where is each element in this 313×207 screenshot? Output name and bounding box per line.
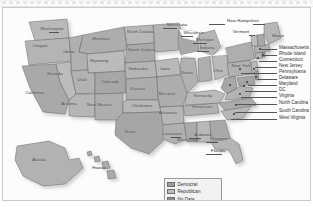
callout-dot-connecticut bbox=[257, 57, 259, 59]
leader-line-indiana bbox=[197, 51, 209, 52]
map-label-new-hampshire: New Hampshire bbox=[225, 19, 261, 24]
callout-label-delaware: Delaware bbox=[279, 76, 298, 81]
map-label-tennessee: Tennessee bbox=[189, 105, 215, 110]
callout-label-new-jersey: New Jersey bbox=[279, 64, 303, 69]
leader-line-washington bbox=[49, 32, 59, 33]
map-label-vermont: Vermont bbox=[229, 30, 253, 35]
map-legend: Democrat Republican No Data bbox=[164, 178, 222, 201]
callout-label-dc: DC bbox=[279, 88, 286, 93]
map-label-georgia: Georgia bbox=[208, 137, 230, 142]
map-label-missouri: Missouri bbox=[155, 92, 179, 97]
map-label-utah: Utah bbox=[73, 78, 91, 83]
map-label-kentucky: Kentucky bbox=[191, 94, 215, 99]
map-label-florida: Florida bbox=[208, 149, 228, 154]
legend-item-democrat[interactable]: Democrat bbox=[167, 181, 219, 189]
leader-line-maryland bbox=[248, 85, 277, 86]
callout-label-north-carolina: North Carolina bbox=[279, 101, 308, 106]
map-label-nevada: Nevada bbox=[43, 72, 67, 77]
map-label-illinois: Illinois bbox=[177, 71, 197, 76]
map-label-arizona: Arizona bbox=[57, 102, 81, 107]
legend-item-republican[interactable]: Republican bbox=[167, 188, 219, 196]
leader-line-pennsylvania bbox=[241, 73, 277, 74]
callout-dot-new-jersey bbox=[253, 68, 255, 70]
callout-dot-west-virginia bbox=[229, 84, 231, 86]
leader-line-massachusetts bbox=[261, 49, 277, 50]
map-label-maine: Maine bbox=[269, 34, 287, 39]
map-label-south-dakota: South Dakota bbox=[128, 48, 148, 53]
map-label-indiana: Indiana bbox=[197, 46, 217, 51]
callout-label-virginia: Virginia bbox=[279, 94, 294, 99]
leader-line-new-jersey bbox=[255, 67, 277, 68]
callout-label-rhode-island: Rhode Island bbox=[279, 52, 306, 57]
state-hawaii-2 bbox=[94, 156, 100, 162]
map-label-kansas: Kansas bbox=[127, 87, 149, 92]
leader-line-georgia bbox=[206, 142, 218, 143]
state-hawaii-1 bbox=[87, 151, 92, 156]
leader-line-west-virginia bbox=[231, 119, 277, 120]
state-north-dakota bbox=[124, 25, 154, 45]
state-hawaii-4 bbox=[107, 170, 116, 179]
map-label-new-york: New York bbox=[229, 64, 253, 69]
state-new-york bbox=[225, 42, 255, 63]
legend-swatch-democrat bbox=[167, 182, 175, 187]
leader-line-mississippi bbox=[171, 137, 181, 138]
callout-dot-pennsylvania bbox=[239, 68, 241, 70]
callout-label-connecticut: Connecticut bbox=[279, 58, 303, 63]
callout-dot-south-carolina bbox=[233, 113, 235, 115]
map-label-california: California bbox=[21, 91, 49, 96]
legend-label-no-data: No Data bbox=[178, 197, 195, 201]
leader-line-rhode-island bbox=[264, 55, 277, 56]
callout-label-pennsylvania: Pennsylvania bbox=[279, 70, 306, 75]
leader-line-delaware bbox=[257, 79, 277, 80]
leader-line-virginia bbox=[241, 97, 277, 98]
us-map-figure: Washington Oregon Idaho Montana North Da… bbox=[2, 7, 311, 201]
map-label-alaska: Alaska bbox=[29, 158, 49, 163]
map-label-north-dakota: North Dakota bbox=[127, 30, 147, 35]
map-label-wisconsin: Wisconsin bbox=[182, 31, 206, 36]
screenshot-root: Washington Oregon Idaho Montana North Da… bbox=[0, 0, 313, 207]
callout-dot-delaware bbox=[255, 76, 257, 78]
map-label-nebraska: Nebraska bbox=[125, 67, 151, 72]
leader-line-north-carolina bbox=[237, 104, 277, 105]
map-label-ohio: Ohio bbox=[211, 69, 225, 74]
callout-dot-maryland bbox=[246, 81, 248, 83]
cut-off-text-strip bbox=[0, 0, 313, 7]
leader-line-vermont bbox=[249, 35, 255, 36]
legend-item-no-data[interactable]: No Data bbox=[167, 196, 219, 202]
leader-line-florida bbox=[206, 154, 222, 155]
map-label-texas: Texas bbox=[120, 130, 140, 135]
leader-line-new-hampshire-2 bbox=[253, 24, 265, 25]
map-label-wyoming: Wyoming bbox=[86, 59, 112, 64]
leader-line-alabama bbox=[189, 138, 201, 139]
map-label-oregon: Oregon bbox=[27, 44, 53, 49]
leader-line-new-hampshire bbox=[209, 24, 225, 25]
leader-line-south-carolina bbox=[235, 112, 277, 113]
map-label-colorado: Colorado bbox=[97, 80, 123, 85]
legend-label-democrat: Democrat bbox=[178, 182, 198, 187]
state-indiana bbox=[198, 56, 212, 82]
callout-label-maryland: Maryland bbox=[279, 82, 298, 87]
map-label-minnesota: Minnesota bbox=[164, 23, 190, 28]
leader-line-connecticut bbox=[259, 61, 277, 62]
callout-label-south-carolina: South Carolina bbox=[279, 109, 309, 114]
callout-label-massachusetts: Massachusetts bbox=[279, 46, 309, 51]
ghost-text-line bbox=[2, 1, 311, 4]
leader-line-dc bbox=[245, 91, 277, 92]
leader-line-michigan bbox=[193, 43, 207, 44]
map-label-iowa: Iowa bbox=[157, 67, 173, 72]
map-label-washington: Washington bbox=[37, 27, 67, 32]
legend-label-republican: Republican bbox=[178, 189, 201, 194]
leader-line-wisconsin bbox=[181, 36, 193, 37]
callout-dot-virginia bbox=[239, 93, 241, 95]
legend-swatch-no-data bbox=[167, 197, 175, 201]
map-label-hawaii: Hawaii bbox=[89, 166, 109, 171]
state-alaska bbox=[15, 141, 83, 186]
map-label-arkansas: Arkansas bbox=[156, 111, 180, 116]
leader-line-minnesota bbox=[163, 28, 177, 29]
map-label-oklahoma: Oklahoma bbox=[129, 104, 155, 109]
map-label-new-mexico: New Mexico bbox=[87, 103, 107, 108]
state-south-dakota bbox=[125, 43, 155, 63]
map-label-idaho: Idaho bbox=[59, 50, 79, 55]
callout-dot-dc bbox=[243, 85, 245, 87]
state-arkansas bbox=[160, 106, 184, 125]
